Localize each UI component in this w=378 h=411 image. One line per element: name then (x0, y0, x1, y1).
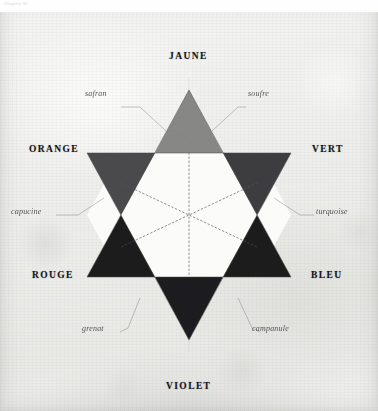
color-star-plate: JAUNE ROUGE BLEU ORANGE VERT VIOLET safr… (0, 0, 378, 411)
label-rouge: ROUGE (32, 270, 74, 280)
leader-grenat (120, 298, 140, 332)
label-bleu: BLEU (311, 270, 342, 280)
label-jaune: JAUNE (169, 51, 208, 61)
label-safran: safran (85, 89, 107, 98)
triangle-violet (155, 277, 223, 340)
label-turquoise: turquoise (316, 207, 348, 216)
label-capucine: capucine (11, 207, 41, 216)
label-grenat: grenat (82, 324, 104, 333)
running-head: Chapitre VI (4, 1, 27, 6)
page-top-strip (0, 0, 378, 12)
label-orange: ORANGE (29, 144, 79, 154)
label-vert: VERT (312, 144, 344, 154)
leader-soufre (212, 107, 246, 131)
leader-safran (121, 107, 166, 131)
label-soufre: soufre (248, 89, 269, 98)
triangle-jaune (155, 90, 223, 153)
label-violet: VIOLET (166, 381, 211, 391)
label-campanule: campanule (252, 324, 289, 333)
